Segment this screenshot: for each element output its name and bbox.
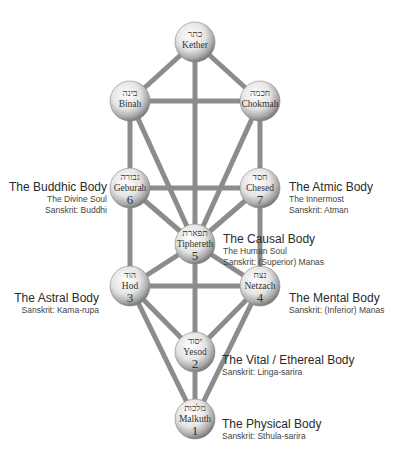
label-physical-body: The Physical Body Sanskrit: Sthula-sarir… [222, 417, 321, 442]
sephirah-hebrew: חכמה [250, 88, 270, 98]
label-title: The Vital / Ethereal Body [222, 353, 355, 367]
sephirah-number: 3 [127, 290, 134, 305]
label-title: The Mental Body [289, 291, 384, 305]
sephirah-hebrew: יסוד [188, 336, 202, 346]
tree-of-life-diagram: כתרKetherבינהBinahחכמהChokmahגבורהGebura… [0, 0, 397, 467]
sephirah-number: 5 [192, 248, 199, 263]
sephirah-name: Chokmah [242, 99, 279, 109]
sephirah-chesed: חסדChesed7 [240, 168, 280, 208]
label-line: The Innermost [289, 194, 373, 204]
sephirah-hebrew: גבורה [120, 172, 139, 182]
sephirah-number: 4 [257, 290, 264, 305]
label-title: The Astral Body [14, 291, 99, 305]
sephirah-number: 1 [192, 423, 199, 438]
sephirah-number: 6 [127, 192, 134, 207]
sephirah-name: Kether [182, 40, 209, 50]
label-title: The Physical Body [222, 417, 321, 431]
label-mental-body: The Mental Body Sanskrit: (Inferior) Man… [289, 291, 384, 316]
sephirah-geburah: גבורהGeburah6 [110, 168, 150, 208]
label-title: The Atmic Body [289, 180, 373, 194]
label-title: The Buddhic Body [9, 180, 107, 194]
sephirah-hebrew: כתר [188, 29, 202, 39]
label-line: Sanskrit: Atman [289, 205, 373, 215]
label-title: The Causal Body [223, 232, 324, 246]
label-line: Sanskrit: (Superior) Manas [223, 257, 324, 267]
label-atmic-body: The Atmic Body The Innermost Sanskrit: A… [289, 180, 373, 215]
label-line: Sanskrit: Sthula-sarira [222, 431, 321, 441]
sephirah-kether: כתרKether [175, 22, 215, 62]
sephirah-hebrew: מלכות [184, 403, 206, 413]
sephirah-hod: הודHod3 [110, 266, 150, 306]
sephirah-hebrew: הוד [124, 270, 136, 280]
sephirah-hebrew: תפארת [182, 228, 208, 238]
sephirah-hebrew: חסד [253, 172, 268, 182]
label-line: Sanskrit: (Inferior) Manas [289, 305, 384, 315]
label-astral-body: The Astral Body Sanskrit: Kama-rupa [14, 291, 99, 316]
label-line: Sanskrit: Kama-rupa [14, 305, 99, 315]
sephirah-tiphereth: תפארתTiphereth5 [175, 224, 215, 264]
sephirah-hebrew: בינה [123, 88, 138, 98]
sephirah-binah: בינהBinah [110, 81, 150, 121]
label-line: Sanskrit: Buddhi [9, 205, 107, 215]
label-vital-body: The Vital / Ethereal Body Sanskrit: Ling… [222, 353, 355, 378]
sephirah-hebrew: נצח [254, 270, 267, 280]
sephirah-number: 7 [257, 192, 264, 207]
label-line: Sanskrit: Linga-sarira [222, 367, 355, 377]
sephirah-malkuth: מלכותMalkuth1 [175, 399, 215, 439]
label-buddhic-body: The Buddhic Body The Divine Soul Sanskri… [9, 180, 107, 215]
sephirah-netzach: נצחNetzach4 [240, 266, 280, 306]
sephirah-yesod: יסודYesod2 [175, 332, 215, 372]
sephirah-number: 2 [192, 356, 199, 371]
label-line: The Human Soul [223, 246, 324, 256]
sephirah-name: Binah [119, 99, 142, 109]
label-line: The Divine Soul [9, 194, 107, 204]
label-causal-body: The Causal Body The Human Soul Sanskrit:… [223, 232, 324, 267]
sephirah-chokmah: חכמהChokmah [240, 81, 280, 121]
